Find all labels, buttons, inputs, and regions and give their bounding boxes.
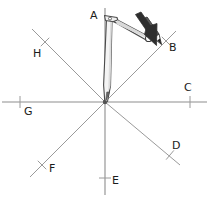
ray-label-G: G [24, 106, 33, 117]
ray-label-D: D [172, 140, 180, 151]
direction-arrow-head [145, 24, 158, 46]
ray-line-D [105, 102, 180, 165]
ray-label-F: F [49, 163, 55, 174]
ray-line-F [30, 102, 105, 177]
ray-line-H [32, 29, 105, 102]
rays-and-compass-figure [0, 0, 209, 203]
ray-label-C: C [184, 82, 192, 93]
ray-label-B: B [169, 42, 177, 53]
diagram-canvas: A B C D E F G H [0, 0, 209, 203]
ray-line-B [105, 31, 176, 102]
ray-label-E: E [112, 175, 119, 186]
compass-hinge-pivot [109, 17, 112, 20]
ray-label-A: A [90, 10, 98, 21]
ray-label-H: H [33, 48, 41, 59]
